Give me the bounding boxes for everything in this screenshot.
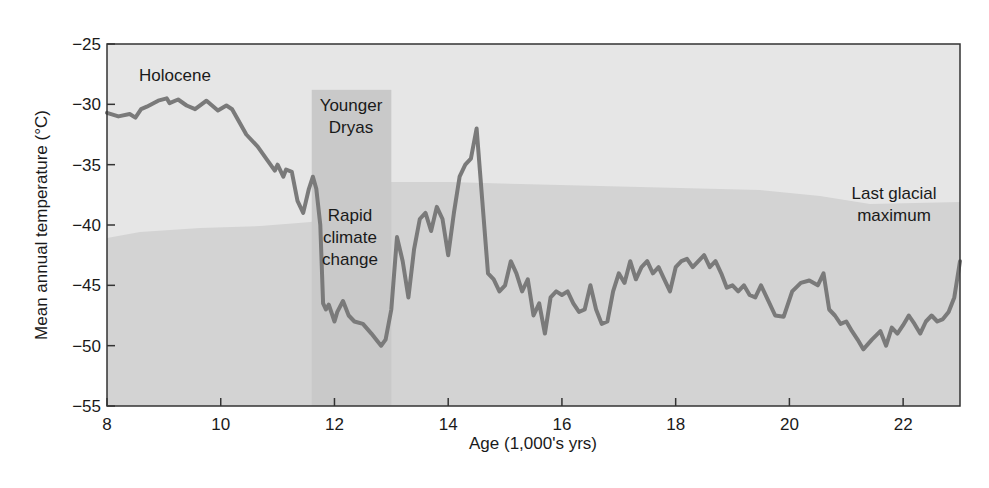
- annotation-holocene: Holocene: [139, 66, 211, 85]
- y-tick-label: −40: [72, 216, 101, 235]
- x-tick-label: 10: [211, 415, 230, 434]
- x-axis-title: Age (1,000's yrs): [469, 434, 597, 453]
- annotation-lgm-line2: maximum: [857, 206, 931, 225]
- y-tick-label: −55: [72, 397, 101, 416]
- x-tick-label: 20: [780, 415, 799, 434]
- annotation-younger-dryas-line2: Dryas: [329, 118, 373, 137]
- x-tick-label: 18: [666, 415, 685, 434]
- y-axis-title: Mean annual temperature (°C): [32, 110, 51, 340]
- y-tick-label: −30: [72, 95, 101, 114]
- y-tick-label: −35: [72, 156, 101, 175]
- annotation-rapid-line3: change: [322, 250, 378, 269]
- x-tick-label: 14: [439, 415, 458, 434]
- annotation-rapid-line1: Rapid: [328, 206, 372, 225]
- annotation-lgm-line1: Last glacial: [851, 184, 936, 203]
- plot-area: [107, 44, 960, 406]
- x-tick-label: 16: [552, 415, 571, 434]
- y-tick-label: −50: [72, 337, 101, 356]
- annotation-younger-dryas-line1: Younger: [320, 96, 383, 115]
- younger-dryas-rect: [312, 90, 392, 406]
- x-tick-label: 12: [325, 415, 344, 434]
- x-tick-label: 8: [102, 415, 111, 434]
- y-tick-label: −25: [72, 35, 101, 54]
- annotation-rapid-line2: climate: [323, 228, 377, 247]
- y-tick-label: −45: [72, 276, 101, 295]
- x-tick-label: 22: [894, 415, 913, 434]
- younger-dryas-band: [312, 90, 392, 406]
- temperature-chart: 810121416182022−25−30−35−40−45−50−55 Hol…: [0, 0, 989, 488]
